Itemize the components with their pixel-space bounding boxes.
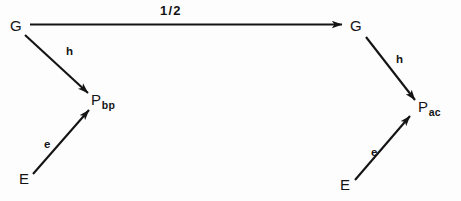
- node-left-p: Pbp: [91, 92, 115, 107]
- node-right-p-subscript: ac: [429, 106, 441, 118]
- edge-label-g-to-g: 1/2: [160, 4, 182, 17]
- node-right-p: Pac: [418, 99, 441, 114]
- diagram-arrows: [0, 0, 461, 201]
- node-right-e: E: [340, 177, 350, 192]
- edge-arrow-left-e: [33, 110, 89, 174]
- node-left-g-label: G: [10, 17, 22, 34]
- node-right-g-label: G: [350, 17, 362, 34]
- edge-arrow-right-h: [366, 37, 415, 100]
- node-left-e: E: [19, 171, 29, 186]
- node-right-p-label: P: [418, 98, 428, 115]
- edge-arrow-left-h: [25, 35, 88, 93]
- node-left-p-subscript: bp: [102, 99, 115, 111]
- node-left-e-label: E: [19, 170, 29, 187]
- diagram-canvas: G Pbp E G Pac E 1/2 h e h e: [0, 0, 461, 201]
- edge-label-right-h: h: [396, 54, 403, 66]
- edge-label-left-e: e: [44, 139, 50, 151]
- edge-label-left-h: h: [66, 46, 73, 58]
- edge-label-right-e: e: [371, 147, 377, 159]
- node-left-g: G: [10, 18, 22, 33]
- node-left-p-label: P: [91, 91, 101, 108]
- node-right-g: G: [350, 18, 362, 33]
- edge-arrow-right-e: [355, 116, 410, 180]
- node-right-e-label: E: [340, 176, 350, 193]
